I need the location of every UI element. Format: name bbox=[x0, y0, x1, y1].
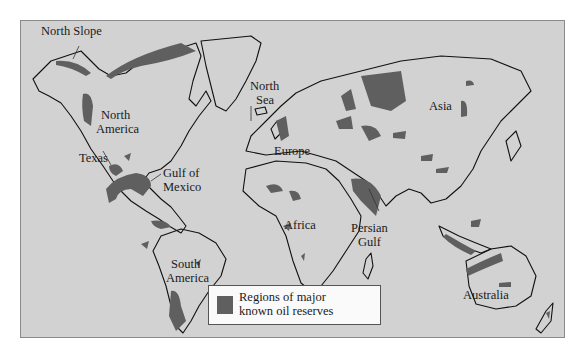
reserve-arctic-canada bbox=[106, 43, 196, 79]
reserve-caspian bbox=[361, 125, 381, 141]
label-persian-gulf-line1: Persian bbox=[351, 221, 388, 235]
reserve-west-siberia bbox=[361, 71, 406, 111]
reserve-north-africa-1 bbox=[266, 184, 283, 193]
madagascar-outline bbox=[363, 253, 373, 279]
legend-reserve-swatch bbox=[217, 296, 233, 314]
label-north-slope: North Slope bbox=[41, 24, 102, 38]
label-south-america-line1: South bbox=[171, 257, 200, 271]
reserve-ecuador bbox=[141, 241, 149, 249]
label-south-america-line2: America bbox=[166, 271, 209, 285]
reserve-angola bbox=[301, 253, 305, 261]
reserve-sumatra bbox=[443, 234, 476, 255]
label-asia: Asia bbox=[429, 99, 452, 113]
reserve-new-zealand bbox=[546, 311, 550, 319]
map-legend: Regions of major known oil reserves bbox=[208, 285, 381, 325]
reserve-volga bbox=[336, 116, 353, 129]
label-europe: Europe bbox=[274, 144, 310, 158]
reserve-persian-gulf bbox=[351, 179, 381, 216]
reserve-kazakhstan bbox=[393, 131, 406, 139]
japan-outline bbox=[506, 131, 521, 161]
iceland-outline bbox=[255, 107, 267, 115]
label-texas: Texas bbox=[79, 151, 108, 165]
reserve-texas bbox=[109, 164, 123, 176]
legend-line2: known oil reserves bbox=[239, 304, 333, 318]
label-persian-gulf-line2: Gulf bbox=[358, 235, 381, 249]
reserve-alberta bbox=[82, 94, 93, 127]
reserve-central-asia bbox=[421, 154, 433, 161]
reserve-china-2 bbox=[436, 167, 449, 173]
reserve-siberia-east bbox=[466, 81, 474, 87]
reserve-russia bbox=[341, 89, 356, 111]
legend-text: Regions of major known oil reserves bbox=[239, 290, 333, 318]
reserve-north-sea bbox=[276, 116, 289, 141]
reserve-nw-australia bbox=[466, 253, 503, 276]
legend-line1: Regions of major bbox=[239, 290, 333, 304]
reserve-midwest bbox=[124, 153, 131, 161]
reserve-north-africa-2 bbox=[289, 191, 301, 201]
world-oil-reserves-map: North Slope North America Texas Gulf of … bbox=[20, 20, 565, 338]
reserve-borneo bbox=[471, 219, 481, 227]
label-north-america-line2: America bbox=[96, 122, 139, 136]
label-north-sea-line2: Sea bbox=[256, 93, 274, 107]
reserve-central-australia bbox=[499, 282, 511, 287]
label-gulf-of-mexico-line1: Gulf of bbox=[163, 166, 199, 180]
reserve-venezuela bbox=[151, 221, 171, 229]
reserve-argentina bbox=[169, 291, 186, 331]
new-zealand-outline bbox=[536, 303, 553, 333]
label-north-america-line1: North bbox=[101, 108, 130, 122]
label-north-sea-line1: North bbox=[250, 79, 279, 93]
reserve-north-slope bbox=[56, 61, 91, 76]
label-africa: Africa bbox=[284, 218, 316, 232]
label-gulf-of-mexico-line2: Mexico bbox=[163, 180, 201, 194]
label-australia: Australia bbox=[463, 288, 509, 302]
reserve-china-1 bbox=[461, 101, 467, 117]
